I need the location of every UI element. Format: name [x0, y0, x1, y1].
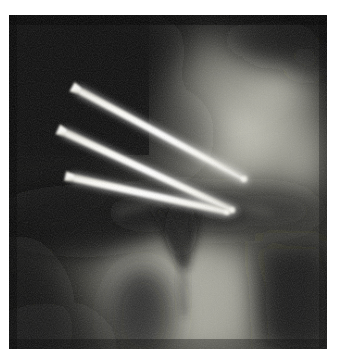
film-grain: [9, 15, 327, 349]
radiograph-canvas: [9, 15, 327, 349]
caption-strip: [0, 349, 339, 362]
screenshot-root: [0, 0, 339, 362]
radiograph-image: [9, 15, 327, 349]
